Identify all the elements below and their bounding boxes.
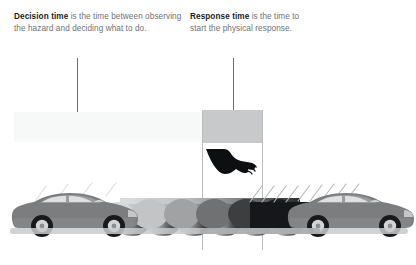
callout-response-lead: Response time (190, 12, 249, 21)
decision-time-band (14, 112, 202, 142)
road-scene (0, 178, 416, 242)
callout-response-time: Response time is the time to start the p… (190, 11, 308, 35)
diagram-canvas: Decision time is the time between observ… (0, 0, 416, 265)
callout-decision-lead: Decision time (14, 12, 68, 21)
response-time-band (202, 110, 262, 143)
foot-on-brake-pedal-icon (204, 146, 262, 176)
callout-decision-time: Decision time is the time between observ… (14, 11, 182, 35)
road-shadow-line (10, 228, 408, 234)
